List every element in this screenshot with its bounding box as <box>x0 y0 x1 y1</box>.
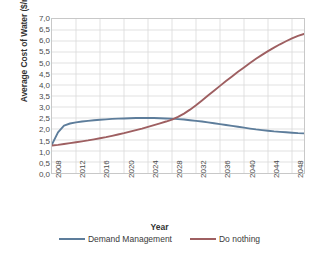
y-axis-tick-label: 4,0 <box>39 80 50 89</box>
x-axis-tick-label: 2048 <box>296 160 305 178</box>
legend-entry[interactable]: Do nothing <box>190 234 260 244</box>
y-axis-tick-label: 5,5 <box>39 47 50 56</box>
y-axis-tick-label: 3,5 <box>39 92 50 101</box>
x-axis-tick-label: 2044 <box>272 160 281 178</box>
chart-legend: Demand ManagementDo nothing <box>0 234 319 244</box>
x-axis-tick-label: 2024 <box>151 160 160 178</box>
y-axis-tick-label: 2,5 <box>39 114 50 123</box>
y-axis-tick-label: 4,5 <box>39 69 50 78</box>
y-axis-tick-label: 0,0 <box>39 170 50 179</box>
cost-of-water-line-chart: Average Cost of Water ($/m3) 0,00,51,01,… <box>0 0 319 262</box>
x-axis-title: Year <box>0 222 319 232</box>
y-axis-tick-label: 6,5 <box>39 25 50 34</box>
y-axis-tick-label: 5,0 <box>39 58 50 67</box>
y-axis-tick-label: 6,0 <box>39 36 50 45</box>
y-axis-tick-label: 3,0 <box>39 103 50 112</box>
y-axis-tick-label: 1,5 <box>39 136 50 145</box>
x-axis-tick-label: 2008 <box>54 160 63 178</box>
y-axis-tick-label: 1,0 <box>39 147 50 156</box>
x-axis-tick-label: 2040 <box>248 160 257 178</box>
legend-line-swatch <box>190 238 216 240</box>
legend-entry[interactable]: Demand Management <box>59 234 172 244</box>
x-axis-tick-label: 2012 <box>78 160 87 178</box>
x-axis-tick-label: 2020 <box>127 160 136 178</box>
y-axis-tick-label: 7,0 <box>39 14 50 23</box>
legend-line-swatch <box>59 238 85 240</box>
plot-svg <box>52 19 304 173</box>
x-axis-tick-labels: 2008201220162020202420282032203620402044… <box>51 178 305 222</box>
x-axis-tick-label: 2032 <box>199 160 208 178</box>
x-axis-tick-label: 2016 <box>102 160 111 178</box>
legend-label: Do nothing <box>219 234 260 244</box>
y-axis-tick-label: 2,0 <box>39 125 50 134</box>
y-axis-tick-label: 0,5 <box>39 158 50 167</box>
plot-area <box>51 18 305 174</box>
legend-label: Demand Management <box>88 234 172 244</box>
x-axis-tick-label: 2028 <box>175 160 184 178</box>
x-axis-tick-label: 2036 <box>223 160 232 178</box>
y-axis-tick-labels: 0,00,51,01,52,02,53,03,54,04,55,05,56,06… <box>26 14 50 178</box>
